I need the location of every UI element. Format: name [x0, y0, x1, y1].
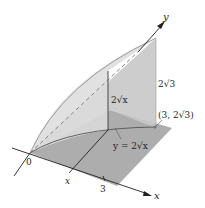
height-x-label: 2√x: [111, 95, 128, 105]
x-axis-arrow-icon: [143, 191, 152, 196]
origin-label: 0: [26, 157, 32, 167]
y-axis-arrow-icon: [157, 21, 165, 29]
y-axis-label: y: [162, 11, 169, 22]
x-end-tick-label: 3: [100, 184, 106, 194]
x-variable-label: x: [65, 176, 70, 186]
x-axis-label: x: [154, 190, 160, 201]
solid-region-diagram: y x 0 x 3 2√3 2√x y = 2√x (3, 2√3): [0, 0, 205, 208]
curve-equation-label: y = 2√x: [112, 141, 148, 151]
height-end-label: 2√3: [158, 79, 175, 89]
endpoint-label: (3, 2√3): [158, 110, 194, 120]
